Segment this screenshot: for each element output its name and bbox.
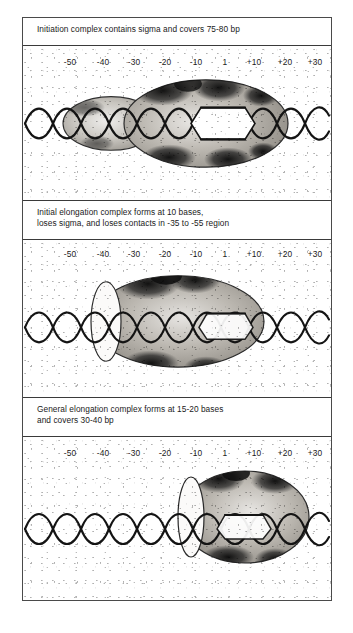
caption-line: and covers 30-40 bp bbox=[37, 415, 331, 426]
caption-line: Initiation complex contains sigma and co… bbox=[37, 24, 331, 35]
caption-line: loses sigma, and loses contacts in -35 t… bbox=[37, 218, 331, 229]
initial-elongation-canvas bbox=[23, 240, 331, 397]
caption-initiation: Initiation complex contains sigma and co… bbox=[23, 18, 331, 46]
caption-line: General elongation complex forms at 15-2… bbox=[37, 404, 331, 415]
transcription-complex-figure: Initiation complex contains sigma and co… bbox=[22, 17, 332, 601]
initial-elongation-complex-diagram: -50 -40 -30 -20 -10 1 +10 +20 +30 bbox=[23, 240, 331, 398]
caption-line: Initial elongation complex forms at 10 b… bbox=[37, 207, 331, 218]
transcription-bubble bbox=[217, 515, 271, 539]
initiation-canvas bbox=[23, 46, 331, 200]
transcription-bubble bbox=[191, 108, 255, 140]
panel-general-elongation: General elongation complex forms at 15-2… bbox=[23, 398, 331, 600]
panel-initiation: Initiation complex contains sigma and co… bbox=[23, 18, 331, 201]
general-elongation-canvas bbox=[23, 437, 331, 600]
transcription-bubble bbox=[199, 314, 253, 340]
caption-general-elongation: General elongation complex forms at 15-2… bbox=[23, 398, 331, 437]
caption-initial-elongation: Initial elongation complex forms at 10 b… bbox=[23, 201, 331, 240]
initiation-complex-diagram: -50 -40 -30 -20 -10 1 +10 +20 +30 bbox=[23, 46, 331, 201]
panel-initial-elongation: Initial elongation complex forms at 10 b… bbox=[23, 201, 331, 398]
general-elongation-complex-diagram: -50 -40 -30 -20 -10 1 +10 +20 +30 bbox=[23, 437, 331, 600]
